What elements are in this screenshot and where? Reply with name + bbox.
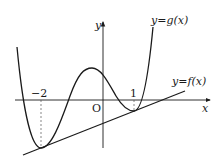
tick-label-1: 1 xyxy=(130,87,137,100)
y-axis-label: y xyxy=(94,19,102,32)
curve-f-label: y=f(x) xyxy=(171,75,206,88)
x-axis-label: x xyxy=(202,102,209,115)
curve-g-label: y=g(x) xyxy=(150,14,188,27)
graph: y x O −2 1 y=g(x) y=f(x) xyxy=(0,0,218,166)
origin-label: O xyxy=(92,102,101,115)
tick-label-neg2: −2 xyxy=(31,87,47,100)
